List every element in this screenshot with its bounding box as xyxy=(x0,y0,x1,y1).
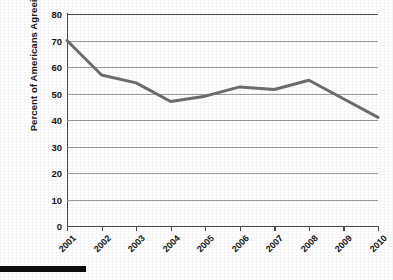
x-tick-label-2002: 2002 xyxy=(91,233,112,254)
x-tick-2009 xyxy=(343,226,344,231)
x-tick-label-2008: 2008 xyxy=(299,233,320,254)
x-tick-2002 xyxy=(102,226,103,231)
x-tick-2005 xyxy=(205,226,206,231)
y-tick-label-70: 70 xyxy=(51,35,62,46)
series-line xyxy=(67,14,378,226)
y-axis-title: Percent of Americans Agreeing xyxy=(28,0,39,140)
x-tick-2010 xyxy=(378,226,379,231)
x-tick-label-2007: 2007 xyxy=(264,233,285,254)
gridline-0: 0 xyxy=(67,226,378,227)
x-tick-2003 xyxy=(136,226,137,231)
y-tick-label-40: 40 xyxy=(51,115,62,126)
black-scan-bar xyxy=(0,266,86,272)
y-tick-label-80: 80 xyxy=(51,9,62,20)
x-tick-2008 xyxy=(309,226,310,231)
y-tick-label-20: 20 xyxy=(51,168,62,179)
x-tick-2001 xyxy=(67,226,68,231)
x-tick-label-2001: 2001 xyxy=(57,233,78,254)
x-tick-label-2003: 2003 xyxy=(126,233,147,254)
x-tick-2006 xyxy=(240,226,241,231)
x-tick-2004 xyxy=(171,226,172,231)
x-tick-label-2005: 2005 xyxy=(195,233,216,254)
x-tick-label-2006: 2006 xyxy=(230,233,251,254)
x-tick-label-2010: 2010 xyxy=(368,233,389,254)
x-tick-label-2004: 2004 xyxy=(160,233,181,254)
y-tick-label-0: 0 xyxy=(57,221,62,232)
line-chart-figure: Percent of Americans Agreeing 0102030405… xyxy=(0,0,393,280)
y-tick-label-60: 60 xyxy=(51,62,62,73)
plot-area: 01020304050607080 xyxy=(67,14,378,226)
x-tick-label-2009: 2009 xyxy=(333,233,354,254)
x-tick-2007 xyxy=(274,226,275,231)
y-tick-label-50: 50 xyxy=(51,88,62,99)
y-tick-label-30: 30 xyxy=(51,141,62,152)
y-tick-label-10: 10 xyxy=(51,194,62,205)
